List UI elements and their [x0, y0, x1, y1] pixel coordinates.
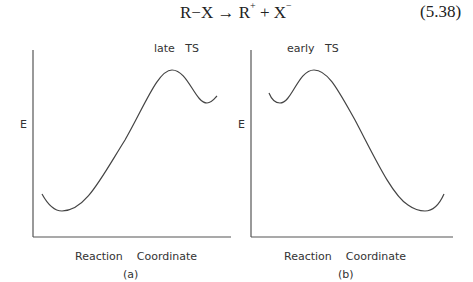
energy-curve-early-ts: [269, 70, 444, 211]
x-axis-label: Reaction Coordinate: [75, 250, 197, 263]
y-axis-label: E: [20, 118, 27, 131]
late-ts-label: late TS: [154, 42, 199, 55]
early-ts-label: early TS: [287, 42, 339, 55]
panel-b: early TS E Reaction Coordinate (b): [238, 42, 453, 281]
y-axis-label: E: [238, 118, 245, 131]
panel-a: late TS E Reaction Coordinate (a): [20, 42, 231, 281]
caption-a: (a): [123, 268, 138, 281]
x-axis-label: Reaction Coordinate: [284, 250, 406, 263]
energy-diagrams: late TS E Reaction Coordinate (a) early …: [0, 0, 473, 282]
caption-b: (b): [338, 268, 354, 281]
energy-curve-late-ts: [42, 70, 217, 211]
